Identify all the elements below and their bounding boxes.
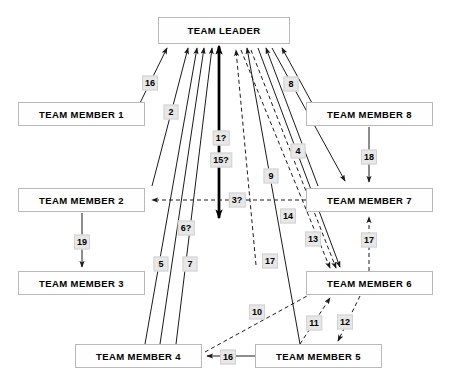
node-team-member-7[interactable]: TEAM MEMBER 7 <box>306 188 433 212</box>
node-team-member-2[interactable]: TEAM MEMBER 2 <box>18 188 145 212</box>
edge-label-1q: 1? <box>213 131 230 146</box>
edge-label-9: 9 <box>264 169 279 184</box>
edge-m5-leader <box>247 48 300 344</box>
node-team-member-8[interactable]: TEAM MEMBER 8 <box>306 102 433 126</box>
edge-label-13: 13 <box>305 232 321 247</box>
edge-label-6q: 6? <box>178 221 195 236</box>
edge-label-15q: 15? <box>210 153 232 168</box>
edge-label-14: 14 <box>280 209 296 224</box>
edge-label-10: 10 <box>249 305 265 320</box>
edge-m8-leader <box>282 48 312 103</box>
edge-label-16-m5m4: 16 <box>220 350 236 365</box>
node-team-member-6[interactable]: TEAM MEMBER 6 <box>306 271 433 295</box>
node-team-member-4[interactable]: TEAM MEMBER 4 <box>75 344 202 368</box>
node-team-member-3[interactable]: TEAM MEMBER 3 <box>18 271 145 295</box>
network-diagram: TEAM LEADER TEAM MEMBER 1 TEAM MEMBER 8 … <box>0 0 449 389</box>
edge-label-17-m6m7: 17 <box>361 233 377 248</box>
edge-label-11: 11 <box>306 316 322 331</box>
edge-label-7: 7 <box>183 257 198 272</box>
edge-label-5: 5 <box>154 257 169 272</box>
node-team-member-1[interactable]: TEAM MEMBER 1 <box>18 102 145 126</box>
edge-label-17-m5: 17 <box>262 254 278 269</box>
edge-m4-leader-b <box>160 48 204 344</box>
edge-label-16-m1: 16 <box>142 76 158 91</box>
edge-label-3q: 3? <box>229 193 246 208</box>
edge-m4-leader-a <box>145 48 197 344</box>
edge-label-2: 2 <box>164 105 179 120</box>
edge-label-18: 18 <box>361 150 377 165</box>
edge-label-4: 4 <box>291 144 306 159</box>
edge-label-8: 8 <box>284 77 299 92</box>
node-team-leader[interactable]: TEAM LEADER <box>158 17 290 44</box>
edge-label-19: 19 <box>74 235 90 250</box>
node-team-member-5[interactable]: TEAM MEMBER 5 <box>255 344 382 368</box>
edge-label-12: 12 <box>337 315 353 330</box>
edge-m4-leader-c <box>176 48 212 344</box>
